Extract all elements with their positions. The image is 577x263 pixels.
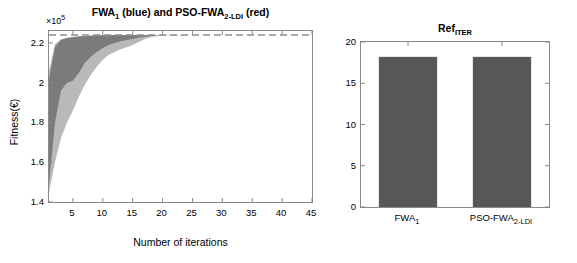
convergence-x-tick-label: 30 [216,207,227,218]
convergence-title-a: FWA [92,6,115,18]
ref-iter-panel: RefITER 05101520 FWA1PSO-FWA2-LDI [330,0,577,263]
convergence-x-tick-label: 35 [246,207,257,218]
ref-iter-plot-area [360,41,550,208]
convergence-title-b-sub: 2-LDI [224,12,243,21]
convergence-plot-svg [49,31,312,202]
ref-iter-y-tick-label: 0 [330,201,356,212]
ref-iter-plot-svg [361,42,549,207]
convergence-x-tick-label: 40 [276,207,287,218]
ref-iter-title-base: Ref [438,22,455,34]
convergence-x-tick-label: 15 [126,207,137,218]
ref-iter-category-sub: 2-LDI [514,217,532,226]
ref-iter-category-label: PSO-FWA2-LDI [470,212,532,226]
convergence-y-tick-label: 1.8 [4,116,44,127]
ref-iter-y-tick-label: 5 [330,159,356,170]
convergence-plot-area [48,30,313,203]
ref-iter-category-label: FWA1 [395,212,420,226]
ref-iter-title: RefITER [360,22,550,37]
convergence-band-dark [49,35,312,184]
convergence-x-tick-label: 5 [69,207,74,218]
convergence-x-axis-label: Number of iterations [48,236,313,248]
exponent-power: 5 [61,14,65,21]
convergence-x-tick-label: 25 [186,207,197,218]
ref-iter-y-tick-label: 15 [330,77,356,88]
convergence-y-tick-label: 1.6 [4,156,44,167]
ref-iter-y-tick-label: 20 [330,36,356,47]
y-axis-exponent: ×105 [46,14,65,26]
convergence-title: FWA1 (blue) and PSO-FWA2-LDI (red) [48,6,313,21]
convergence-panel: FWA1 (blue) and PSO-FWA2-LDI (red) ×105 … [0,0,330,263]
convergence-y-tick-label: 2 [4,76,44,87]
convergence-x-tick-label: 45 [306,207,317,218]
convergence-x-tick-label: 10 [96,207,107,218]
ref-iter-bar [473,57,531,207]
exponent-base: ×10 [46,16,61,26]
convergence-y-tick-label: 1.4 [4,196,44,207]
convergence-title-tail: (red) [243,6,269,18]
figure-root: FWA1 (blue) and PSO-FWA2-LDI (red) ×105 … [0,0,577,263]
ref-iter-title-sub: ITER [455,28,472,37]
ref-iter-y-tick-label: 10 [330,118,356,129]
convergence-title-mid: (blue) and PSO-FWA [119,6,224,18]
ref-iter-category-base: FWA [395,212,416,223]
ref-iter-category-sub: 1 [415,217,419,226]
ref-iter-bar [379,57,437,207]
ref-iter-category-base: PSO-FWA [470,212,514,223]
convergence-x-tick-label: 20 [156,207,167,218]
convergence-y-tick-label: 2.2 [4,36,44,47]
